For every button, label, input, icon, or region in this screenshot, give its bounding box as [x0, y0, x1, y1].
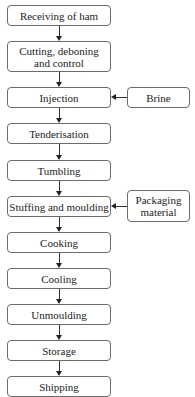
- step-label: Receiving of ham: [20, 10, 98, 22]
- step-tenderisation: Tenderisation: [7, 123, 111, 144]
- step-label: Shipping: [39, 381, 79, 393]
- step-label: Cooking: [40, 237, 78, 249]
- arrow-down-icon: [56, 155, 62, 160]
- step-tumbling: Tumbling: [7, 160, 111, 181]
- step-label: Injection: [39, 92, 78, 104]
- arrow-down-icon: [56, 263, 62, 268]
- input-label: Packaging material: [131, 194, 186, 218]
- arrow-down-icon: [56, 335, 62, 340]
- arrow-down-icon: [56, 227, 62, 232]
- step-label: Unmoulding: [31, 309, 87, 321]
- step-cooling: Cooling: [7, 268, 111, 289]
- input-brine: Brine: [127, 87, 190, 108]
- step-storage: Storage: [7, 340, 111, 361]
- arrow-down-icon: [56, 36, 62, 41]
- step-label: Tenderisation: [29, 128, 89, 140]
- step-injection: Injection: [7, 87, 111, 108]
- arrow-down-icon: [56, 118, 62, 123]
- arrow-left-icon: [111, 94, 116, 100]
- step-label: Cutting, deboning and control: [19, 45, 99, 69]
- arrow-down-icon: [56, 371, 62, 376]
- step-shipping: Shipping: [7, 376, 111, 397]
- step-unmoulding: Unmoulding: [7, 304, 111, 325]
- step-receiving: Receiving of ham: [7, 5, 111, 26]
- arrow-down-icon: [56, 82, 62, 87]
- step-cutting: Cutting, deboning and control: [7, 41, 111, 72]
- arrow-down-icon: [56, 299, 62, 304]
- step-stuffing: Stuffing and moulding: [7, 196, 111, 217]
- input-packaging: Packaging material: [127, 190, 190, 222]
- arrow-left-icon: [111, 203, 116, 209]
- step-label: Storage: [42, 345, 76, 357]
- step-label: Cooling: [41, 273, 76, 285]
- input-label: Brine: [146, 92, 170, 104]
- step-cooking: Cooking: [7, 232, 111, 253]
- step-label: Tumbling: [37, 165, 80, 177]
- step-label: Stuffing and moulding: [9, 201, 108, 213]
- arrow-down-icon: [56, 191, 62, 196]
